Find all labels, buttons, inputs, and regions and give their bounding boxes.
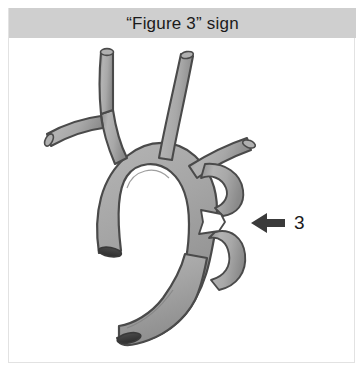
left-common-carotid-artery: [159, 54, 193, 160]
arrow-left-icon: [251, 213, 285, 233]
aortic-arch-illustration: [9, 38, 354, 361]
panel-header: “Figure 3” sign: [9, 8, 356, 38]
brachiocephalic-trunk: [101, 110, 127, 164]
arch-inner-contour: [127, 170, 169, 188]
right-subclavian-artery: [47, 116, 103, 146]
annotation-label: 3: [294, 213, 305, 232]
vessel-group: [43, 49, 257, 346]
figure-body: 3: [9, 38, 354, 361]
annotation-arrow: [251, 213, 285, 233]
page-title: “Figure 3” sign: [126, 15, 239, 32]
right-common-carotid-artery: [100, 52, 114, 114]
figure-panel: “Figure 3” sign: [8, 8, 355, 363]
right-common-carotid-tip: [101, 49, 114, 56]
descending-aorta: [119, 254, 207, 345]
